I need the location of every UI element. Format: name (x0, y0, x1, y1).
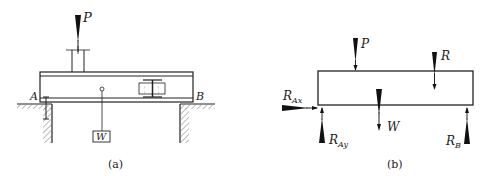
label-w: W (96, 131, 107, 142)
label-w-b: W (387, 120, 401, 134)
svg-text:+: + (143, 90, 146, 95)
label-r: R (440, 49, 450, 63)
svg-text:+: + (157, 90, 160, 95)
load-post (66, 46, 90, 72)
label-ray: RAy (328, 133, 349, 149)
free-body-rect (318, 71, 473, 105)
label-b: B (195, 90, 204, 103)
force-arrow-w (376, 89, 382, 131)
label-p: P (82, 10, 92, 25)
label-rb: RB (445, 134, 461, 150)
label-a: A (29, 90, 38, 103)
force-arrow-ray (319, 107, 325, 143)
force-arrow-rax (282, 105, 318, 111)
force-arrow-p (353, 38, 358, 71)
force-arrow-rb (464, 107, 470, 144)
figure-b: P R W RAx RAy (282, 37, 473, 171)
caption-a: (a) (108, 158, 123, 171)
caption-b: (b) (387, 158, 403, 171)
label-p-b: P (360, 37, 370, 51)
figure-a: P + + + + (17, 10, 215, 171)
ground (17, 104, 215, 143)
girder (40, 72, 193, 102)
trolley-icon: + + + + (139, 80, 165, 97)
label-rax: RAx (282, 89, 303, 105)
